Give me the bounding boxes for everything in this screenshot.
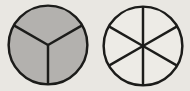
fraction-circle-sixths-unshaded bbox=[102, 5, 184, 87]
fraction-circle-thirds-shaded bbox=[7, 4, 89, 86]
fraction-circles-figure bbox=[0, 0, 190, 91]
